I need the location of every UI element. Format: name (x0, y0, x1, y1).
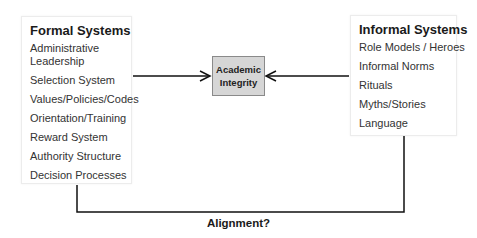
list-item: Rituals (359, 79, 456, 92)
list-item: Myths/Stories (359, 98, 456, 111)
informal-systems-box: Informal Systems Role Models / Heroes In… (350, 15, 457, 136)
formal-systems-title: Formal Systems (30, 23, 131, 38)
list-item: Decision Processes (30, 169, 131, 182)
center-label-line1: Academic (216, 63, 261, 76)
list-item: Reward System (30, 131, 131, 144)
list-item: Authority Structure (30, 150, 131, 163)
list-item: Selection System (30, 74, 131, 87)
academic-integrity-box: Academic Integrity (212, 56, 265, 96)
list-item: Values/Policies/Codes (30, 93, 131, 106)
list-item: Role Models / Heroes (359, 41, 456, 54)
center-label-line2: Integrity (216, 76, 261, 89)
informal-systems-title: Informal Systems (359, 22, 456, 37)
list-item: Language (359, 117, 456, 130)
list-item: Administrative Leadership (30, 42, 110, 68)
formal-systems-box: Formal Systems Administrative Leadership… (21, 16, 132, 184)
list-item: Orientation/Training (30, 112, 131, 125)
alignment-caption: Alignment? (0, 217, 477, 229)
list-item: Informal Norms (359, 60, 456, 73)
